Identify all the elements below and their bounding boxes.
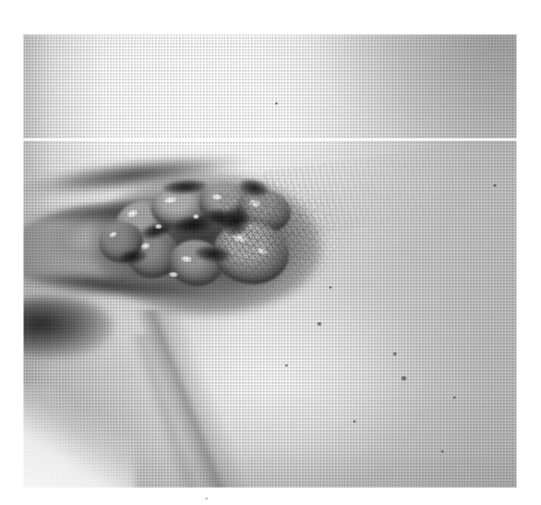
corner-highlight-wedge (23, 384, 135, 488)
clinical-photograph (23, 34, 517, 488)
page-speck (205, 497, 208, 500)
scanner-white-line (23, 138, 517, 141)
page-canvas (0, 0, 541, 505)
